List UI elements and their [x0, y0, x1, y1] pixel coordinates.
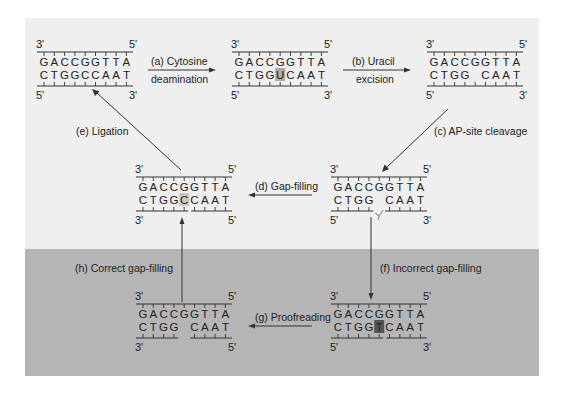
end-label-bottom-right: 3' [324, 89, 332, 101]
top-base: G [471, 56, 480, 68]
bottom-base: G [159, 194, 168, 206]
bottom-base: C [430, 69, 438, 81]
bottom-base: T [123, 69, 130, 81]
top-base: T [407, 181, 414, 193]
step-a-label-line1: (a) Cytosine [151, 55, 208, 67]
top-base: C [170, 181, 178, 193]
end-label-bottom-right: 3' [519, 89, 527, 101]
top-base: G [81, 56, 90, 68]
bottom-base: C [139, 321, 147, 333]
bottom-base: T [150, 194, 157, 206]
bottom-base: A [211, 321, 219, 333]
top-base: T [396, 181, 403, 193]
top-base: G [385, 181, 394, 193]
top-base: T [201, 181, 208, 193]
step-b-label-line2: excision [356, 73, 394, 85]
bottom-base: A [492, 69, 500, 81]
bottom-base: T [513, 69, 520, 81]
top-base: A [513, 56, 521, 68]
bottom-base: G [265, 69, 274, 81]
top-base: T [503, 56, 510, 68]
bottom-base: A [396, 321, 404, 333]
bottom-base: T [222, 321, 229, 333]
top-base: C [71, 56, 79, 68]
bottom-base: T [376, 321, 383, 333]
bottom-base: C [190, 321, 198, 333]
bottom-base: C [190, 194, 198, 206]
top-base: G [334, 181, 343, 193]
bottom-base: C [91, 69, 99, 81]
top-base: G [139, 181, 148, 193]
end-label-bottom-left: 3' [135, 341, 143, 353]
top-base: A [222, 308, 230, 320]
bottom-base: G [460, 69, 469, 81]
end-label-top-right: 5' [228, 163, 236, 175]
top-base: C [255, 56, 263, 68]
top-base: G [180, 181, 189, 193]
end-label-top-left: 3' [135, 290, 143, 302]
end-label-bottom-left: 5' [330, 214, 338, 226]
top-base: C [354, 308, 362, 320]
bottom-base: C [235, 69, 243, 81]
top-base: C [365, 181, 373, 193]
bottom-base: A [307, 69, 315, 81]
top-base: G [385, 308, 394, 320]
bottom-base: A [112, 69, 120, 81]
top-base: G [40, 56, 49, 68]
top-base: A [344, 308, 352, 320]
end-label-top-left: 3' [330, 290, 338, 302]
top-base: A [417, 308, 425, 320]
end-label-top-right: 5' [324, 38, 332, 50]
top-base: C [159, 181, 167, 193]
end-label-bottom-left: 5' [330, 341, 338, 353]
bottom-base: G [450, 69, 459, 81]
bottom-base: T [318, 69, 325, 81]
end-label-top-left: 3' [330, 163, 338, 175]
end-label-bottom-right: 5' [228, 214, 236, 226]
top-base: C [159, 308, 167, 320]
top-base: A [245, 56, 253, 68]
top-base: C [60, 56, 68, 68]
bottom-base: G [255, 69, 264, 81]
top-base: G [139, 308, 148, 320]
bottom-base: C [334, 321, 342, 333]
top-base: T [212, 181, 219, 193]
end-label-bottom-right: 3' [423, 341, 431, 353]
step-c-label: (c) AP-site cleavage [434, 125, 528, 137]
end-label-top-left: 3' [231, 38, 239, 50]
end-label-bottom-right: 3' [423, 214, 431, 226]
bottom-base: C [385, 194, 393, 206]
bottom-base: A [406, 194, 414, 206]
top-base: G [334, 308, 343, 320]
bottom-base: A [406, 321, 414, 333]
bottom-base: G [169, 194, 178, 206]
top-base: A [50, 56, 58, 68]
bottom-base: G [60, 69, 69, 81]
bottom-base: G [354, 194, 363, 206]
top-base: T [201, 308, 208, 320]
bottom-base: C [180, 194, 188, 206]
bottom-base: T [441, 69, 448, 81]
top-base: T [297, 56, 304, 68]
end-label-bottom-left: 3' [135, 214, 143, 226]
bottom-base: T [417, 321, 424, 333]
step-g-label: (g) Proofreading [255, 311, 331, 323]
bottom-base: G [70, 69, 79, 81]
top-base: A [123, 56, 131, 68]
bottom-base: T [150, 321, 157, 333]
step-d-label: (d) Gap-filling [255, 180, 318, 192]
end-label-bottom-left: 5' [231, 89, 239, 101]
top-base: T [212, 308, 219, 320]
end-label-top-right: 5' [423, 290, 431, 302]
top-base: C [354, 181, 362, 193]
end-label-top-left: 3' [36, 38, 44, 50]
top-base: G [375, 181, 384, 193]
top-base: G [190, 181, 199, 193]
top-base: C [266, 56, 274, 68]
bottom-base: U [276, 69, 284, 81]
step-a-label-line2: deamination [151, 73, 208, 85]
top-base: G [235, 56, 244, 68]
top-base: G [91, 56, 100, 68]
top-base: C [450, 56, 458, 68]
end-label-bottom-left: 5' [426, 89, 434, 101]
